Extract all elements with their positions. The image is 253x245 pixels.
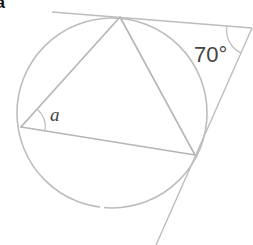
circle-tangent-diagram: a 70°: [0, 0, 253, 245]
circle: [17, 18, 207, 208]
angle-arc-a: [37, 109, 45, 131]
tangent-line-top: [52, 12, 252, 28]
angle-arc-70: [227, 26, 241, 53]
circle-gap: [100, 204, 104, 210]
angle-label-70: 70°: [194, 42, 227, 67]
angle-label-a: a: [50, 104, 60, 125]
